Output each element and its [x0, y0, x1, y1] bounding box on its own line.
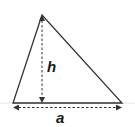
base-label: a: [56, 110, 64, 125]
triangle-diagram: h a: [0, 0, 135, 127]
triangle-outline: [13, 15, 122, 103]
height-label: h: [47, 59, 56, 74]
triangle-figure: [0, 0, 135, 127]
